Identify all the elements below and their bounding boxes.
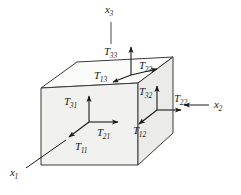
stress-label-T21: T21	[97, 127, 111, 138]
stress-label-T12: T12	[133, 125, 147, 136]
stress-label-T13: T13	[94, 70, 108, 81]
stress-label-T23: T23	[139, 60, 153, 71]
stress-label-T33: T33	[104, 46, 118, 57]
stress-label-T31: T31	[64, 96, 78, 107]
stress-label-T32: T32	[139, 86, 153, 97]
stress-label-T11: T11	[75, 141, 88, 152]
stress-label-T22: T22	[174, 93, 188, 104]
stress-cube-figure: x3 x2 x1 T31 T21 T11 T33 T23 T13 T32 T22…	[0, 0, 241, 195]
axis-label-x2: x2	[214, 99, 223, 110]
axis-label-x3: x3	[105, 4, 114, 15]
axis-label-x1: x1	[10, 167, 19, 178]
cube-front-face	[41, 83, 138, 165]
cube-diagram-canvas	[0, 0, 241, 195]
